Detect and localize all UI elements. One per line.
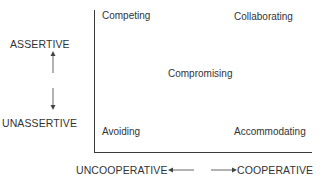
arrow-right-icon [211,167,237,173]
vertical-axis-line [94,10,95,153]
cooperative-label: COOPERATIVE [237,164,313,176]
collaborating-label: Collaborating [234,11,293,23]
arrow-up-icon [50,51,56,73]
assertive-label: ASSERTIVE [10,38,70,50]
competing-label: Competing [102,10,150,22]
uncooperative-label: UNCOOPERATIVE [76,164,168,176]
compromising-label: Compromising [168,68,232,80]
horizontal-axis-line [94,152,312,153]
accommodating-label: Accommodating [234,126,306,138]
unassertive-label: UNASSERTIVE [2,117,77,129]
avoiding-label: Avoiding [102,126,140,138]
arrow-down-icon [50,88,56,110]
arrow-left-icon [168,167,194,173]
